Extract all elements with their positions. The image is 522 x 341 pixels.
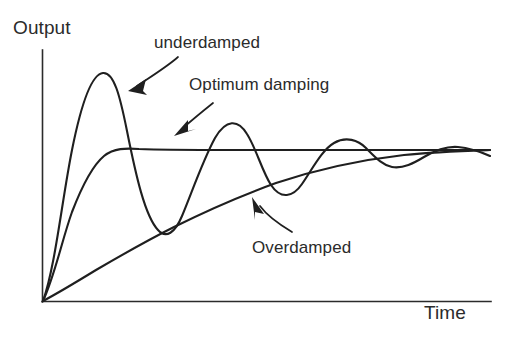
leader-overdamped-line <box>260 206 292 232</box>
y-axis-label: Output <box>13 17 71 39</box>
x-axis-label: Time <box>424 302 466 324</box>
leader-underdamped <box>128 57 178 95</box>
leader-optimum-arrowhead <box>174 120 196 136</box>
leader-optimum <box>174 103 213 136</box>
leader-overdamped <box>252 197 292 232</box>
plot-canvas <box>0 0 522 341</box>
damping-response-figure: Output Time underdamped Optimum damping … <box>0 0 522 341</box>
leader-underdamped-arrowhead <box>128 79 147 95</box>
curve-overdamped <box>43 150 490 301</box>
annotation-optimum-damping: Optimum damping <box>189 75 329 95</box>
annotation-underdamped: underdamped <box>154 33 260 53</box>
annotation-overdamped: Overdamped <box>252 238 351 258</box>
curve-optimum-damping <box>43 149 490 301</box>
